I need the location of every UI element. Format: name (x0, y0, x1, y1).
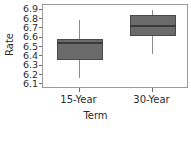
y-axis-tick-mark (39, 74, 42, 75)
y-axis-tick-label: 6.4 (18, 51, 38, 61)
y-axis-tick-label: 6.2 (18, 70, 38, 80)
median-line (130, 25, 176, 27)
whisker-lower (79, 60, 80, 78)
y-axis-tick-label: 6.3 (18, 60, 38, 70)
y-axis-tick-mark (39, 18, 42, 19)
x-axis-tick-label: 30-Year (133, 94, 169, 105)
x-axis-tick-label: 15-Year (60, 94, 96, 105)
x-axis-tick-mark (152, 88, 153, 92)
y-axis-tick-mark (39, 37, 42, 38)
median-line (57, 42, 103, 44)
y-axis-tick-label: 6.6 (18, 32, 38, 42)
whisker-upper (79, 20, 80, 39)
y-axis-tick-label: 6.7 (18, 23, 38, 33)
boxplot-chart: Rate 6.16.26.36.46.56.66.76.86.9 Term 15… (0, 0, 191, 144)
y-axis-tick-label: 6.9 (18, 4, 38, 14)
y-axis-tick-mark (39, 27, 42, 28)
whisker-lower (152, 36, 153, 55)
x-axis-tick-mark (79, 88, 80, 92)
x-axis-title: Term (0, 110, 191, 121)
plot-frame (42, 4, 188, 88)
y-axis-tick-mark (39, 46, 42, 47)
y-axis-tick-mark (39, 9, 42, 10)
y-axis-tick-label: 6.8 (18, 14, 38, 24)
y-axis-tick-mark (39, 65, 42, 66)
y-axis-title: Rate (4, 23, 15, 67)
y-axis-tick-label: 6.5 (18, 42, 38, 52)
y-axis-tick-mark (39, 55, 42, 56)
y-axis-tick-label: 6.1 (18, 79, 38, 89)
plot-area (43, 5, 187, 87)
y-axis-tick-labels: 6.16.26.36.46.56.66.76.86.9 (18, 0, 38, 110)
y-axis-tick-mark (39, 83, 42, 84)
